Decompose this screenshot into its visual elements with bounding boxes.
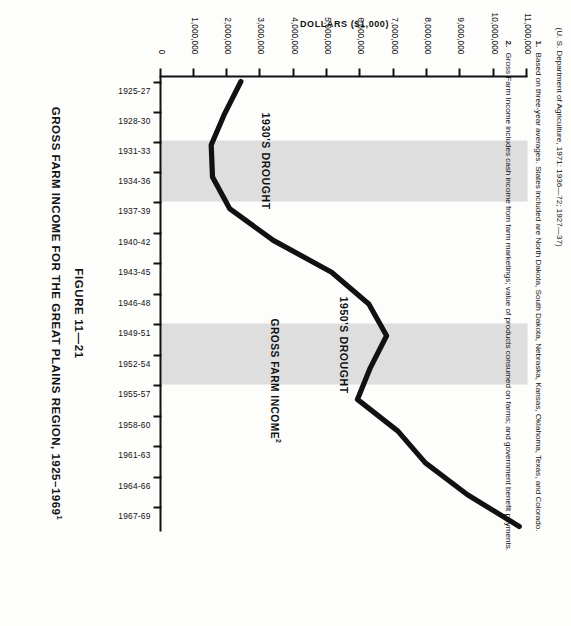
y-tick bbox=[458, 68, 460, 76]
x-tick-label: 1940-42 bbox=[118, 236, 150, 246]
x-tick bbox=[153, 445, 161, 447]
x-tick bbox=[153, 384, 161, 386]
y-tick bbox=[225, 68, 227, 76]
y-tick-label: 3,000,000 bbox=[255, 17, 265, 54]
x-tick-label: 1934-36 bbox=[118, 175, 150, 185]
figure-title: GROSS FARM INCOME FOR THE GREAT PLAINS R… bbox=[49, 0, 63, 626]
x-tick bbox=[153, 476, 161, 478]
y-tick-label: 7,000,000 bbox=[389, 17, 399, 54]
x-tick-label: 1961-63 bbox=[118, 449, 150, 459]
x-tick-label: 1967-69 bbox=[118, 510, 150, 520]
y-tick-label: 2,000,000 bbox=[222, 17, 232, 54]
x-tick-label: 1946-48 bbox=[118, 297, 150, 307]
y-tick-label: 9,000,000 bbox=[455, 17, 465, 54]
footnote-1: 1. Based on three-year averages. States … bbox=[531, 40, 543, 600]
y-tick-label: 11,000,000 bbox=[522, 13, 532, 54]
series-label-text: GROSS FARM INCOME bbox=[269, 318, 280, 439]
x-tick-label: 1955-57 bbox=[118, 388, 150, 398]
x-tick-label: 1958-60 bbox=[118, 419, 150, 429]
series-label-superscript: 2 bbox=[274, 439, 281, 443]
gross-farm-income-line bbox=[211, 81, 519, 526]
x-tick-label: 1937-39 bbox=[118, 205, 150, 215]
x-tick bbox=[153, 201, 161, 203]
y-tick bbox=[325, 68, 327, 76]
series-label-gross-farm-income: GROSS FARM INCOME2 bbox=[269, 318, 281, 443]
x-tick bbox=[153, 415, 161, 417]
rotated-figure-canvas: 1930'S DROUGHT 1950'S DROUGHT 1925-27 19… bbox=[0, 0, 571, 626]
x-tick-label: 1931-33 bbox=[118, 145, 150, 155]
x-tick-label: 1928-30 bbox=[118, 115, 150, 125]
y-tick-label: 0 bbox=[156, 49, 166, 54]
x-tick-label: 1964-66 bbox=[118, 480, 150, 490]
x-tick-label: 1943-45 bbox=[118, 266, 150, 276]
y-tick-label: 4,000,000 bbox=[289, 17, 299, 54]
x-tick bbox=[153, 293, 161, 295]
figure-number: FIGURE 11—21 bbox=[72, 0, 84, 626]
x-tick-label: 1952-54 bbox=[118, 358, 150, 368]
footnote-2: 2. Gross Farm Income includes cash incom… bbox=[501, 40, 513, 600]
y-tick bbox=[492, 68, 494, 76]
y-tick bbox=[525, 68, 527, 76]
x-tick-label: 1949-51 bbox=[118, 327, 150, 337]
y-tick-label: 8,000,000 bbox=[422, 17, 432, 54]
footnote-2-text: Gross Farm Income includes cash income f… bbox=[501, 40, 513, 600]
y-tick bbox=[159, 68, 161, 76]
y-tick-label: 1,000,000 bbox=[189, 17, 199, 54]
figure-title-text: GROSS FARM INCOME FOR THE GREAT PLAINS R… bbox=[49, 106, 61, 515]
y-tick bbox=[392, 68, 394, 76]
y-tick bbox=[258, 68, 260, 76]
x-tick bbox=[153, 506, 161, 508]
figure-page: 1930'S DROUGHT 1950'S DROUGHT 1925-27 19… bbox=[0, 0, 571, 626]
x-tick-label: 1925-27 bbox=[118, 85, 150, 95]
x-tick bbox=[153, 262, 161, 264]
y-tick bbox=[358, 68, 360, 76]
x-tick bbox=[153, 323, 161, 325]
gross-farm-income-line-chart bbox=[161, 76, 527, 531]
footnote-1-marker: 1. bbox=[531, 40, 543, 47]
x-tick bbox=[153, 171, 161, 173]
source-note: (U. S. Department of Agriculture, 1971: … bbox=[554, 27, 563, 246]
y-axis-title: DOLLARS ($1,000) bbox=[299, 18, 388, 28]
x-tick bbox=[153, 141, 161, 143]
y-tick bbox=[292, 68, 294, 76]
y-tick-label: 10,000,000 bbox=[489, 12, 499, 54]
y-tick bbox=[425, 68, 427, 76]
x-tick bbox=[153, 354, 161, 356]
footnote-1-text: Based on three-year averages. States inc… bbox=[531, 40, 543, 600]
x-tick bbox=[153, 111, 161, 113]
figure-title-superscript: 1 bbox=[54, 515, 63, 520]
footnote-2-marker: 2. bbox=[501, 40, 513, 47]
x-tick bbox=[153, 81, 161, 83]
x-tick bbox=[153, 232, 161, 234]
y-tick bbox=[192, 68, 194, 76]
